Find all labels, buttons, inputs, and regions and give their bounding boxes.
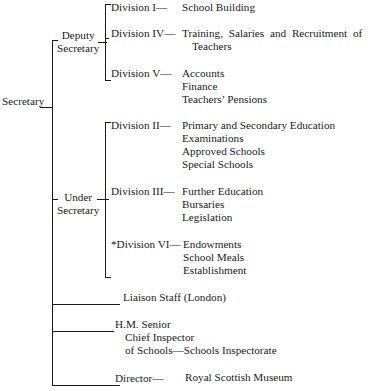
- division-ii-duty: Primary and Secondary Education: [182, 119, 335, 132]
- division-vi-name: *Division VI—: [111, 238, 181, 251]
- inspectorate-connector: [52, 331, 114, 332]
- division-i-name: Division I—: [111, 1, 167, 14]
- division-v-name: Division V—: [111, 67, 171, 80]
- liaison-staff-label: Liaison Staff (London): [123, 291, 226, 304]
- division-vi-duty: Establishment: [183, 264, 246, 277]
- museum-director-label: Director—: [115, 372, 163, 385]
- deputy-bracket-bottom: [105, 80, 111, 81]
- inspectorate-line3: of Schools—Schools Inspectorate: [125, 344, 277, 357]
- division-iii-duty: Bursaries: [182, 198, 224, 211]
- under-bracket: [105, 122, 106, 278]
- under-label-line1: Under: [57, 191, 99, 204]
- division-i-duty: School Building: [182, 1, 255, 14]
- division-v-duty: Accounts: [182, 67, 224, 80]
- deputy-secretary-label: Deputy Secretary: [57, 29, 99, 55]
- division-vi-duty: School Meals: [183, 251, 244, 264]
- division-iii-name: Division III—: [111, 185, 175, 198]
- under-secretary-label: Under Secretary: [57, 191, 99, 217]
- inspectorate-line1: H.M. Senior: [115, 318, 171, 331]
- under-label-line2: Secretary: [57, 204, 99, 217]
- inspectorate-line2: Chief Inspector: [125, 331, 194, 344]
- museum-unit-label: Royal Scottish Museum: [185, 371, 293, 384]
- division-iv-name: Division IV—: [111, 27, 175, 40]
- deputy-label-line2: Secretary: [57, 42, 99, 55]
- deputy-bracket: [105, 4, 106, 81]
- deputy-bracket-mid: [105, 38, 109, 39]
- division-ii-duty: Approved Schools: [182, 145, 265, 158]
- liaison-connector: [52, 304, 120, 305]
- division-vi-duty: Endowments: [183, 238, 241, 251]
- division-iii-duty: Legislation: [182, 211, 232, 224]
- division-v-duty: Teachers’ Pensions: [182, 93, 267, 106]
- division-ii-name: Division II—: [111, 119, 171, 132]
- division-iv-duty-line1: Training, Salaries and Recruitment of: [182, 27, 362, 40]
- division-iv-duty-line2: Teachers: [192, 40, 232, 53]
- root-secretary-label: Secretary: [2, 95, 44, 108]
- division-ii-duty: Special Schools: [182, 158, 253, 171]
- division-iii-duty: Further Education: [182, 185, 263, 198]
- division-v-duty: Finance: [182, 80, 217, 93]
- division-ii-duty: Examinations: [182, 132, 244, 145]
- under-bracket-bottom: [105, 277, 111, 278]
- museum-connector: [52, 385, 120, 386]
- main-spine: [52, 40, 53, 386]
- deputy-label-line1: Deputy: [57, 29, 99, 42]
